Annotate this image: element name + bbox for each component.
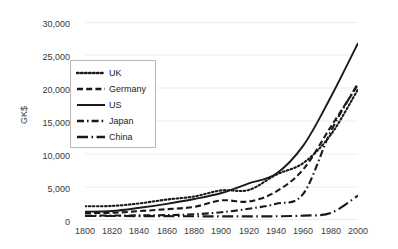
- y-tick-5000: 5,000: [14, 185, 70, 194]
- legend-label-china: China: [109, 132, 133, 142]
- legend-item-china[interactable]: China: [71, 129, 155, 145]
- y-tick-20000: 20,000: [14, 86, 70, 95]
- legend-label-uk: UK: [109, 68, 122, 78]
- y-tick-15000: 15,000: [14, 119, 70, 128]
- y-tick-25000: 25,000: [14, 53, 70, 62]
- y-axis-tick-labels: 0 5,000 10,000 15,000 20,000 25,000 30,0…: [14, 0, 70, 249]
- legend-item-us[interactable]: US: [71, 97, 155, 113]
- legend-swatch-uk-icon: [76, 68, 106, 78]
- chart-container: GK$ 0 5,000 10,000 15,000 20,000 25,000 …: [0, 0, 398, 249]
- y-tick-0: 0: [14, 218, 70, 227]
- x-tick-2000: 2000: [338, 226, 378, 236]
- chart-legend: UKGermanyUSJapanChina: [70, 60, 156, 148]
- y-tick-30000: 30,000: [14, 20, 70, 29]
- legend-item-germany[interactable]: Germany: [71, 81, 155, 97]
- legend-label-japan: Japan: [109, 116, 134, 126]
- legend-label-germany: Germany: [109, 84, 146, 94]
- legend-swatch-japan-icon: [76, 116, 106, 126]
- legend-item-uk[interactable]: UK: [71, 65, 155, 81]
- legend-item-japan[interactable]: Japan: [71, 113, 155, 129]
- legend-swatch-germany-icon: [76, 84, 106, 94]
- legend-swatch-us-icon: [76, 100, 106, 110]
- y-tick-10000: 10,000: [14, 152, 70, 161]
- legend-label-us: US: [109, 100, 122, 110]
- legend-swatch-china-icon: [76, 132, 106, 142]
